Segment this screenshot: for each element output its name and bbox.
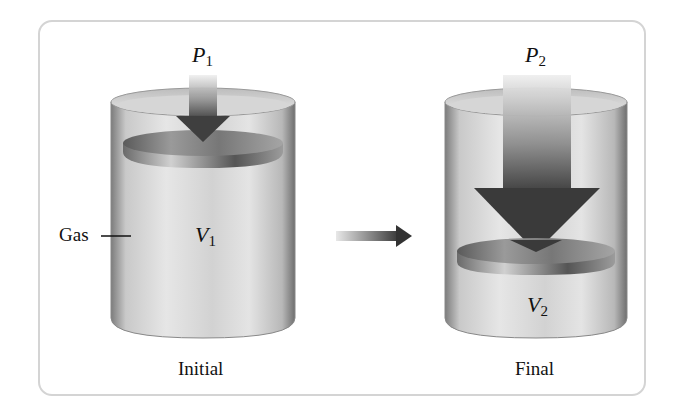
caption-final: Final [515,358,554,380]
pressure-label-final: P2 [525,42,546,70]
caption-initial: Initial [178,358,223,380]
transition-arrow [336,225,412,247]
pressure-label-initial: P1 [192,42,213,70]
initial-cylinder [111,75,295,338]
volume-label-final: V2 [527,292,548,320]
gas-label: Gas [59,224,89,246]
volume-label-initial: V1 [195,222,216,250]
diagram-graphic [0,0,680,417]
